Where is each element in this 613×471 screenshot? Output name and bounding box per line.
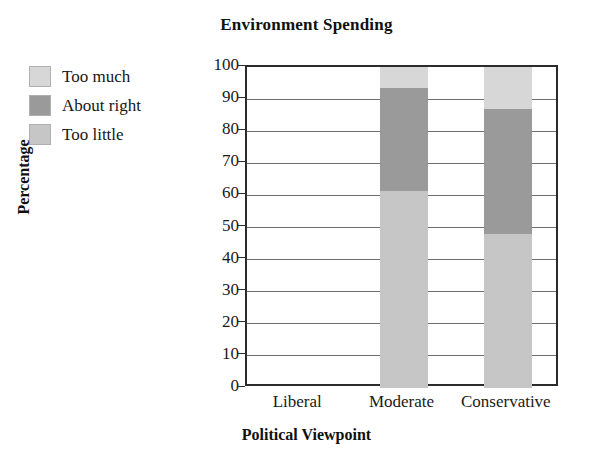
bar-segment-about-right [484, 109, 532, 234]
x-axis-tick-labels: LiberalModerateConservative [245, 392, 558, 416]
y-tick-mark [238, 386, 245, 387]
y-tick-mark [238, 321, 245, 322]
y-axis-tick-labels: 0102030405060708090100 [193, 65, 239, 386]
x-tick-label: Conservative [446, 392, 566, 412]
chart-page: Environment Spending Too much About righ… [0, 0, 613, 471]
y-axis-tick-marks [237, 65, 245, 386]
y-tick-mark [238, 65, 245, 66]
legend-item-too-much: Too much [29, 63, 204, 90]
y-tick-mark [238, 193, 245, 194]
legend-label-too-little: Too little [62, 125, 124, 145]
y-tick-label: 50 [195, 217, 239, 234]
y-tick-label: 90 [195, 88, 239, 105]
x-tick-label: Liberal [237, 392, 357, 412]
plot-area [245, 65, 558, 386]
legend-label-about-right: About right [62, 96, 141, 116]
y-axis-title: Percentage [15, 117, 33, 237]
y-tick-mark [238, 97, 245, 98]
bar-segment-too-much [484, 67, 532, 109]
y-tick-label: 30 [195, 281, 239, 298]
y-tick-label: 10 [195, 345, 239, 362]
bar-conservative [484, 67, 532, 388]
chart-title: Environment Spending [0, 15, 613, 35]
y-tick-label: 20 [195, 313, 239, 330]
bar-segment-too-little [484, 234, 532, 388]
legend-item-about-right: About right [29, 92, 204, 119]
plot-inner [247, 67, 556, 384]
legend-item-too-little: Too little [29, 121, 204, 148]
y-tick-label: 100 [195, 56, 239, 73]
y-tick-label: 40 [195, 249, 239, 266]
chart-legend: Too much About right Too little [29, 63, 204, 150]
bar-moderate [380, 67, 428, 388]
bar-segment-too-much [380, 67, 428, 88]
x-axis-title: Political Viewpoint [0, 426, 613, 444]
legend-swatch-too-much [29, 66, 51, 87]
y-tick-label: 70 [195, 152, 239, 169]
x-tick-label: Moderate [342, 392, 462, 412]
y-tick-label: 60 [195, 184, 239, 201]
bar-segment-about-right [380, 88, 428, 191]
bar-segment-too-little [380, 191, 428, 388]
y-tick-label: 0 [195, 377, 239, 394]
y-tick-mark [238, 289, 245, 290]
y-tick-mark [238, 129, 245, 130]
legend-swatch-about-right [29, 95, 51, 116]
legend-label-too-much: Too much [62, 67, 130, 87]
y-tick-mark [238, 161, 245, 162]
y-tick-mark [238, 257, 245, 258]
y-tick-mark [238, 353, 245, 354]
y-tick-mark [238, 225, 245, 226]
y-tick-label: 80 [195, 120, 239, 137]
